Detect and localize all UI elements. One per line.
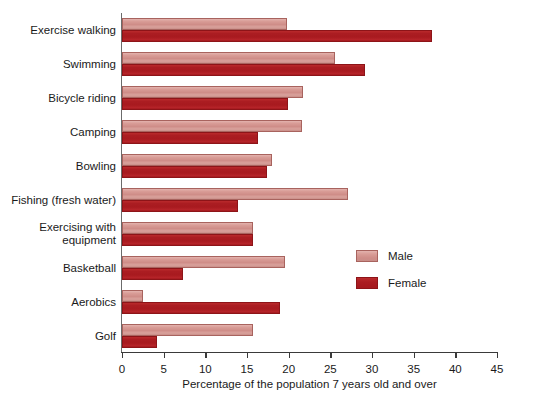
x-axis-tick-label: 30 [366,363,379,375]
x-axis-tick-label: 0 [119,363,125,375]
x-axis-tick [455,353,456,358]
bar-female [122,64,365,76]
category-axis-labels: Exercise walkingSwimmingBicycle ridingCa… [0,0,116,405]
x-axis-line [121,352,498,353]
x-axis-tick [122,353,123,358]
bar-female [122,302,280,314]
category-label: Camping [70,126,116,139]
x-axis-tick [330,353,331,358]
x-axis-tick [205,353,206,358]
x-axis-tick [372,353,373,358]
bar-chart: Exercise walkingSwimmingBicycle ridingCa… [0,0,538,405]
bar-male [122,256,285,268]
legend-label-female: Female [388,277,426,289]
bar-female [122,336,157,348]
legend-item-female[interactable]: Female [356,276,476,290]
chart-legend: Male Female [356,249,476,303]
category-label: Aerobics [71,296,116,309]
x-axis-tick-label: 45 [491,363,504,375]
category-label: Golf [95,330,116,343]
bar-female [122,234,253,246]
x-axis-tick-label: 10 [199,363,212,375]
bar-male [122,188,348,200]
x-axis-tick-label: 5 [160,363,166,375]
legend-item-male[interactable]: Male [356,249,476,263]
bar-male [122,290,143,302]
category-label: Exercise walking [30,24,116,37]
bar-female [122,200,238,212]
bar-male [122,86,303,98]
bar-female [122,98,288,110]
x-axis-tick-label: 40 [449,363,462,375]
bar-male [122,324,253,336]
x-axis-tick-label: 35 [407,363,420,375]
x-axis-tick [164,353,165,358]
x-axis-tick [414,353,415,358]
bar-female [122,268,183,280]
category-label: Bowling [76,160,116,173]
x-axis-tick-label: 15 [241,363,254,375]
bar-male [122,52,335,64]
bar-male [122,120,302,132]
category-label: Exercising with equipment [39,221,116,247]
legend-swatch-male-icon [356,250,378,262]
x-axis-title: Percentage of the population 7 years old… [122,378,497,390]
x-axis-tick [289,353,290,358]
bar-male [122,222,253,234]
bar-female [122,166,267,178]
x-axis-tick-label: 25 [324,363,337,375]
bar-male [122,18,287,30]
x-axis-tick-label: 20 [282,363,295,375]
x-axis-tick [497,353,498,358]
bar-male [122,154,272,166]
bar-female [122,30,432,42]
bar-female [122,132,258,144]
legend-label-male: Male [388,250,413,262]
legend-swatch-female-icon [356,277,378,289]
category-label: Swimming [63,58,116,71]
category-label: Basketball [63,262,116,275]
category-label: Fishing (fresh water) [11,194,116,207]
x-axis-tick [247,353,248,358]
category-label: Bicycle riding [48,92,116,105]
